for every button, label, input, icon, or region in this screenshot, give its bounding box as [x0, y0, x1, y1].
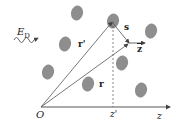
z-prime-label: z' — [110, 110, 117, 119]
origin-label: O — [36, 110, 44, 120]
scatterer-blob — [133, 81, 148, 99]
scatterer-blob — [80, 75, 95, 93]
scatterer-blob — [114, 54, 129, 72]
r-prime-label: r' — [78, 40, 86, 49]
z-axis-label: z — [157, 112, 162, 121]
scattering-diagram: ED r' r s z O z' z — [0, 0, 180, 126]
scatterer-blob — [57, 35, 72, 53]
field-label: ED — [17, 27, 30, 40]
diagram-graphics — [0, 0, 180, 126]
r-label: r — [99, 80, 104, 89]
r-vector — [41, 44, 128, 107]
scatterer-blob — [69, 4, 84, 22]
scatterer-blob — [40, 63, 55, 81]
z-hat-label: z — [137, 45, 142, 54]
r-prime-vector — [41, 22, 112, 107]
scatterer-blob — [143, 22, 158, 40]
s-label: s — [124, 23, 129, 32]
